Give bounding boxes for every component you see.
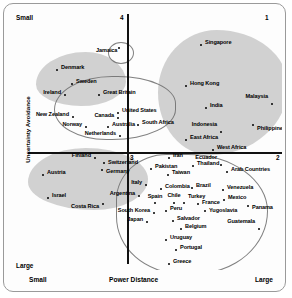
data-point-label: Argentina: [110, 191, 135, 197]
data-point-label: Thailand: [197, 161, 219, 167]
data-point-label: Australia: [112, 122, 135, 128]
data-point-label: Mexico: [228, 195, 246, 201]
data-point-label: Japan: [127, 217, 143, 223]
data-point-label: Costa Rica: [71, 204, 99, 210]
quadrant-1-number: 1: [265, 14, 269, 21]
data-point-label: Germany: [106, 169, 130, 175]
data-point-label: Indonesia: [192, 122, 217, 128]
data-point-label: Peru: [170, 206, 182, 212]
data-point-label: Norway: [62, 122, 82, 128]
data-point-label: India: [210, 103, 223, 109]
x-axis-small-label: Small: [29, 276, 47, 283]
y-axis-large-label: Large: [16, 262, 33, 269]
data-point-label: South Africa: [142, 120, 174, 126]
x-axis-title: Power Distance: [109, 276, 158, 283]
plot-area: Small Large 4 1 3 2 Uncertainty Avoidanc…: [8, 8, 282, 270]
data-point-label: Panama: [252, 205, 273, 211]
data-point-label: Brazil: [196, 183, 211, 189]
data-point-label: Singapore: [205, 40, 231, 46]
data-point-label: Ireland: [43, 90, 61, 96]
data-point-label: East Africa: [190, 135, 218, 141]
y-axis-small-label: Small: [16, 14, 33, 21]
data-point-label: Portugal: [180, 245, 202, 251]
data-point-label: Yugoslavia: [209, 208, 237, 214]
quadrant-4-number: 4: [120, 14, 124, 21]
y-axis-line: [127, 14, 129, 264]
data-point-label: Canada: [94, 113, 114, 119]
data-point-label: Great Britain: [103, 90, 136, 96]
data-point-label: United States: [122, 108, 156, 114]
quadrant-2-number: 2: [276, 154, 280, 161]
data-point-label: Spain: [148, 194, 163, 200]
data-point-label: Ecuador: [195, 155, 217, 161]
data-point-label: Israel: [52, 193, 66, 199]
data-point-label: Chile: [167, 193, 180, 199]
data-point-label: Belgium: [185, 224, 206, 230]
data-point-label: West Africa: [217, 145, 246, 151]
data-point-label: Greece: [173, 259, 191, 265]
data-point-label: Netherlands: [85, 131, 116, 137]
data-point-label: Italy: [131, 180, 142, 186]
y-axis-title: Uncertainty Avoidance: [24, 95, 31, 165]
data-point-label: Arab Countries: [231, 167, 270, 173]
data-point-label: Sweden: [76, 79, 97, 85]
x-axis-large-label: Large: [255, 276, 273, 283]
data-point-label: France: [202, 200, 220, 206]
data-point-label: Colombia: [165, 184, 190, 190]
data-point-label: Venezuela: [227, 185, 253, 191]
data-point-label: Finland: [72, 153, 91, 159]
data-point-label: South Korea: [118, 208, 150, 214]
data-point-label: Hong Kong: [190, 81, 219, 87]
data-point-label: Jamaica: [96, 48, 117, 54]
data-point-label: Guatemala: [227, 219, 255, 225]
data-point-label: Salvador: [177, 216, 200, 222]
data-point-label: Denmark: [61, 65, 84, 71]
data-point-label: New Zealand: [36, 112, 69, 118]
data-point-label: Iran: [173, 153, 183, 159]
data-point-label: Philippines: [257, 126, 282, 132]
x-axis-line: [28, 152, 282, 154]
data-point-label: Switzerland: [108, 160, 138, 166]
data-point-label: Malaysia: [245, 94, 268, 100]
chart-page: Small Large 4 1 3 2 Uncertainty Avoidanc…: [0, 0, 292, 298]
data-point-label: Uruguay: [170, 235, 192, 241]
data-point-label: Taiwan: [172, 170, 190, 176]
data-point-label: Austria: [47, 170, 66, 176]
